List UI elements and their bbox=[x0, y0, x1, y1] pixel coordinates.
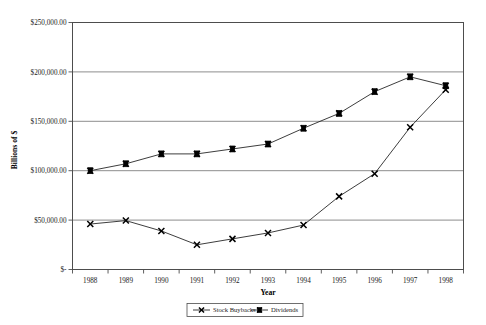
chart-legend: Stock BuybacksDividends bbox=[187, 304, 303, 317]
data-point-marker-square bbox=[265, 141, 271, 147]
data-point-marker-square bbox=[123, 161, 129, 167]
legend-label: Stock Buybacks bbox=[213, 306, 256, 313]
data-point-marker-square bbox=[87, 168, 93, 174]
series-dividends bbox=[87, 74, 448, 174]
y-tick-label: $250,000.00 bbox=[31, 19, 67, 27]
x-tick-label: 1998 bbox=[439, 277, 454, 285]
x-tick-label: 1993 bbox=[261, 277, 276, 285]
y-tick-label: $150,000.00 bbox=[31, 118, 67, 126]
data-series bbox=[87, 74, 448, 248]
data-point-marker-square bbox=[194, 151, 200, 157]
data-point-marker-square bbox=[372, 89, 378, 95]
y-tick-label: $100,000.00 bbox=[31, 167, 67, 175]
x-axis-tick-labels: 1988198919901991199219931994199519961997… bbox=[83, 277, 453, 285]
x-tick-label: 1991 bbox=[190, 277, 205, 285]
data-point-marker-square bbox=[257, 307, 262, 312]
x-axis-ticks bbox=[73, 270, 464, 274]
y-tick-label: $200,000.00 bbox=[31, 69, 67, 77]
series-line bbox=[90, 90, 445, 245]
data-point-marker-square bbox=[443, 83, 449, 89]
x-axis-title: Year bbox=[260, 288, 276, 297]
chart-container: $-$50,000.00$100,000.00$150,000.00$200,0… bbox=[0, 0, 486, 325]
x-tick-label: 1995 bbox=[332, 277, 347, 285]
data-point-marker-x bbox=[407, 124, 413, 130]
series-line bbox=[90, 77, 445, 171]
y-tick-label: $- bbox=[61, 266, 68, 274]
x-tick-label: 1988 bbox=[83, 277, 98, 285]
data-point-marker-x bbox=[372, 171, 378, 177]
data-point-marker-x bbox=[158, 228, 164, 234]
series-stock-buybacks bbox=[87, 87, 448, 248]
data-point-marker-square bbox=[336, 110, 342, 116]
data-point-marker-square bbox=[158, 151, 164, 157]
y-tick-label: $50,000.00 bbox=[34, 217, 67, 225]
x-tick-label: 1994 bbox=[296, 277, 311, 285]
x-tick-label: 1997 bbox=[403, 277, 418, 285]
x-tick-label: 1990 bbox=[154, 277, 169, 285]
x-tick-label: 1992 bbox=[225, 277, 240, 285]
data-point-marker-square bbox=[301, 125, 307, 131]
legend-label: Dividends bbox=[271, 306, 299, 313]
line-chart: $-$50,000.00$100,000.00$150,000.00$200,0… bbox=[0, 0, 486, 325]
y-axis-tick-labels: $-$50,000.00$100,000.00$150,000.00$200,0… bbox=[31, 19, 68, 274]
x-tick-label: 1989 bbox=[119, 277, 134, 285]
data-point-marker-x bbox=[301, 222, 307, 228]
data-point-marker-square bbox=[229, 146, 235, 152]
gridlines bbox=[73, 23, 464, 221]
data-point-marker-square bbox=[407, 74, 413, 80]
y-axis-ticks bbox=[69, 23, 73, 270]
x-tick-label: 1996 bbox=[367, 277, 382, 285]
y-axis-title: Billions of $ bbox=[10, 131, 19, 170]
data-point-marker-x bbox=[336, 193, 342, 199]
